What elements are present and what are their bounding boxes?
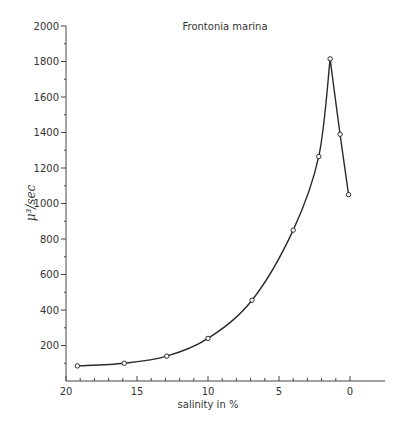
y-tick-label: 1200: [34, 163, 59, 174]
x-axis-label: salinity in %: [178, 399, 239, 410]
y-tick-label: 2000: [34, 21, 59, 32]
x-tick-label: 20: [60, 386, 73, 397]
y-tick-label: 800: [40, 234, 59, 245]
x-tick-label: 15: [131, 386, 144, 397]
data-markers: [75, 57, 351, 368]
chart-canvas: Frontonia marina 20040060080010001200140…: [0, 0, 410, 422]
y-tick-label: 1400: [34, 127, 59, 138]
data-line: [77, 59, 348, 366]
data-point: [75, 364, 79, 368]
x-tick-label: 5: [276, 386, 282, 397]
y-tick-label: 1600: [34, 92, 59, 103]
data-point: [291, 228, 295, 232]
data-point: [338, 132, 342, 136]
data-point: [250, 298, 254, 302]
chart-title: Frontonia marina: [182, 21, 267, 32]
data-point: [122, 361, 126, 365]
data-point: [206, 336, 210, 340]
y-tick-label: 400: [40, 305, 59, 316]
y-axis: 200400600800100012001400160018002000: [34, 21, 66, 382]
data-point: [317, 154, 321, 158]
data-point: [328, 57, 332, 61]
x-tick-label: 0: [347, 386, 353, 397]
x-tick-label: 10: [202, 386, 215, 397]
y-axis-label: μ³/sec: [24, 184, 38, 221]
data-point: [165, 354, 169, 358]
data-point: [346, 192, 350, 196]
y-tick-label: 200: [40, 340, 59, 351]
y-tick-label: 1800: [34, 56, 59, 67]
x-axis: 20151050: [60, 376, 385, 397]
y-tick-label: 600: [40, 269, 59, 280]
